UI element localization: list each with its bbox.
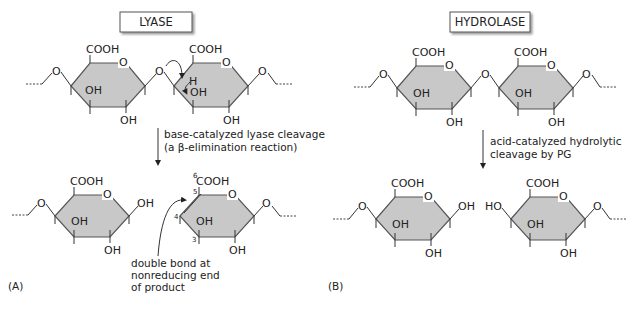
- bridge-oxygen: O: [593, 200, 602, 213]
- hydroxyl-c3: OH: [527, 218, 544, 231]
- pectin-cleavage-diagram: LYASE O O COOH OH OH O: [0, 0, 636, 309]
- ring-oxygen: O: [559, 190, 568, 203]
- atom-number-5: 5: [193, 188, 197, 196]
- panel-b: HYDROLASE O O COOH OH OH O O: [328, 12, 626, 292]
- substrate-ring-2: O COOH OH OH O: [490, 46, 616, 129]
- carboxyl-group: COOH: [86, 43, 119, 56]
- atom-number-3: 3: [192, 236, 196, 244]
- electron-arrow: [166, 61, 182, 76]
- glycosidic-oxygen: O: [481, 68, 490, 81]
- panel-label-b: (B): [328, 280, 343, 292]
- hydroxyl-c2: OH: [229, 244, 246, 257]
- carboxyl-group: COOH: [189, 43, 222, 56]
- bridge-oxygen: O: [52, 65, 61, 78]
- carboxyl-group: COOH: [391, 177, 424, 190]
- hydroxyl-c2: OH: [446, 116, 463, 129]
- bridge-oxygen: O: [582, 68, 591, 81]
- hydroxyl-c3: OH: [392, 218, 409, 231]
- hydroxyl-c3: OH: [515, 87, 532, 100]
- annotation-line1: double bond at: [131, 257, 210, 269]
- substrate-ring-1: O O COOH OH OH: [26, 43, 156, 127]
- lyase-caption-line1: base-catalyzed lyase cleavage: [164, 128, 325, 140]
- lyase-title: LYASE: [139, 15, 172, 29]
- hydroxyl-c2: OH: [560, 247, 577, 260]
- substrate-ring-1: O O COOH OH OH: [354, 46, 481, 129]
- hydroxyl-c4: HO: [485, 200, 502, 213]
- bridge-oxygen: O: [379, 68, 388, 81]
- hydrolase-reaction-arrow: acid-catalyzed hydrolytic cleavage by PG: [483, 130, 622, 166]
- carboxyl-group: COOH: [526, 177, 559, 190]
- carboxyl-group: COOH: [514, 46, 547, 59]
- ring-oxygen: O: [445, 59, 454, 72]
- substrate-ring-2: O COOH H OH OH O: [164, 43, 292, 127]
- ring-oxygen: O: [424, 190, 433, 203]
- lyase-caption-line2: (a β-elimination reaction): [164, 141, 297, 153]
- product-ring-1: O O COOH OH OH OH: [333, 177, 475, 260]
- lyase-title-box: LYASE: [120, 12, 192, 32]
- glycosidic-oxygen: O: [155, 65, 164, 78]
- carboxyl-group: COOH: [412, 46, 445, 59]
- hydrolase-caption-line1: acid-catalyzed hydrolytic: [490, 135, 622, 147]
- hydroxyl-c2: OH: [120, 114, 137, 127]
- annotation-line3: of product: [131, 281, 185, 293]
- hydroxyl-c2: OH: [548, 116, 565, 129]
- bridge-oxygen: O: [358, 200, 367, 213]
- hydrolase-caption-line2: cleavage by PG: [490, 148, 571, 160]
- atom-number-4: 4: [174, 213, 179, 221]
- carboxyl-group: COOH: [196, 175, 229, 188]
- hydroxyl-c3: OH: [196, 215, 213, 228]
- ring-oxygen: O: [228, 188, 237, 201]
- bridge-oxygen: O: [37, 197, 46, 210]
- ring-oxygen: O: [222, 56, 231, 69]
- ring-oxygen: O: [547, 59, 556, 72]
- bridge-oxygen: O: [262, 197, 271, 210]
- hydroxyl-c2: OH: [223, 114, 240, 127]
- ring-oxygen: O: [119, 56, 128, 69]
- hydrolase-title: HYDROLASE: [455, 15, 526, 29]
- bridge-oxygen: O: [258, 65, 267, 78]
- anomeric-hydroxyl: OH: [458, 200, 475, 213]
- hydroxyl-c3: OH: [413, 87, 430, 100]
- panel-a: LYASE O O COOH OH OH O: [8, 12, 325, 293]
- product-ring-2: HO O COOH OH OH O: [485, 177, 626, 260]
- hydroxyl-c2: OH: [104, 244, 121, 257]
- hydrolase-title-box: HYDROLASE: [450, 12, 530, 32]
- hydroxyl-c2: OH: [425, 247, 442, 260]
- lyase-reaction-arrow: base-catalyzed lyase cleavage (a β-elimi…: [158, 128, 325, 163]
- panel-label-a: (A): [8, 280, 23, 292]
- hydroxyl-c3: OH: [71, 215, 88, 228]
- hydroxyl-c3: OH: [190, 86, 207, 99]
- anomeric-hydroxyl: OH: [137, 197, 154, 210]
- annotation-line2: nonreducing end: [131, 269, 220, 281]
- product-ring-1: O O COOH OH OH OH: [12, 175, 154, 257]
- hydroxyl-c3: OH: [85, 84, 102, 97]
- product-ring-2-unsaturated: O 6 COOH 5 4 3 OH OH O: [174, 172, 296, 257]
- carboxyl-group: COOH: [70, 175, 103, 188]
- ring-oxygen: O: [103, 188, 112, 201]
